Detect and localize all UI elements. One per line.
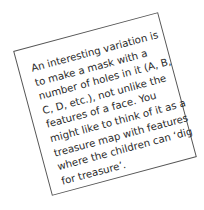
note-text: An interesting variation is to make a ma… xyxy=(30,29,188,189)
page: An interesting variation is to make a ma… xyxy=(0,0,204,210)
rotated-note-box: An interesting variation is to make a ma… xyxy=(13,12,197,196)
